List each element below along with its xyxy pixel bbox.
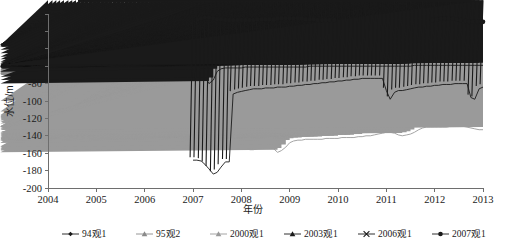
legend-item-2007观1[interactable]: 2007观1 (432, 229, 486, 239)
data-marker (279, 16, 284, 21)
data-marker (251, 18, 256, 23)
y-tick-label: -80 (28, 78, 42, 89)
x-tick-label: 2004 (38, 194, 60, 205)
data-marker (327, 18, 332, 23)
marker-circle (332, 18, 337, 23)
y-tick-label: -20 (28, 26, 42, 37)
x-axis-title: 年份 (243, 203, 263, 215)
legend-label: 95观2 (156, 229, 181, 239)
data-marker (271, 17, 276, 22)
marker-circle (303, 17, 308, 22)
y-tick-label: -160 (23, 148, 42, 159)
legend-item-95观2[interactable]: 95观2 (136, 229, 181, 239)
marker-circle (463, 19, 468, 24)
data-marker (455, 17, 460, 22)
data-marker (211, 16, 216, 21)
marker-circle (446, 16, 451, 21)
x-tick-label: 2009 (279, 194, 300, 205)
x-tick-label: 2007 (183, 194, 204, 205)
data-marker (243, 18, 248, 23)
data-marker (451, 16, 456, 21)
y-tick-label: -60 (28, 61, 42, 72)
marker-circle (451, 16, 456, 21)
chart-canvas: 0-20-40-60-80-100-120-140-160-180-200200… (0, 0, 506, 248)
legend-label: 94观1 (82, 229, 107, 239)
x-tick-label: 2011 (376, 194, 397, 205)
marker-circle (455, 17, 460, 22)
data-marker (255, 17, 260, 22)
marker-circle (291, 16, 296, 21)
marker-diamond (68, 232, 73, 237)
y-axis-title: 水位/m (3, 85, 15, 116)
data-marker (267, 17, 272, 22)
y-tick-label: -40 (28, 43, 42, 54)
data-marker (299, 16, 304, 21)
data-marker (332, 18, 337, 23)
marker-circle (312, 17, 317, 22)
marker-circle (211, 16, 216, 21)
legend-item-94观1[interactable]: 94观1 (62, 229, 107, 239)
marker-circle (207, 15, 212, 20)
marker-circle (458, 18, 463, 23)
marker-circle (243, 18, 248, 23)
legend-item-2006观1[interactable]: 2006观1 (358, 229, 412, 239)
y-tick-label: -120 (23, 113, 42, 124)
water-level-chart: 0-20-40-60-80-100-120-140-160-180-200200… (0, 0, 506, 248)
y-tick-label: -100 (23, 96, 42, 107)
legend-label: 2003观1 (304, 229, 338, 239)
data-marker (231, 18, 236, 23)
legend-item-2003观1[interactable]: 2003观1 (284, 229, 338, 239)
legend-label: 2007观1 (452, 229, 486, 239)
data-marker (471, 20, 476, 25)
marker-circle (231, 18, 236, 23)
marker-circle (430, 18, 435, 23)
data-marker (68, 232, 73, 237)
marker-circle (267, 17, 272, 22)
x-tick-label: 2010 (328, 194, 349, 205)
legend-label: 2000观1 (230, 229, 264, 239)
data-marker (438, 232, 443, 237)
chart-legend: 94观195观22000观12003观12006观12007观1 (62, 229, 486, 239)
data-marker (463, 19, 468, 24)
data-marker (291, 16, 296, 21)
x-tick-label: 2005 (86, 194, 107, 205)
y-tick-label: -200 (23, 183, 42, 194)
legend-label: 2006观1 (378, 229, 412, 239)
marker-circle (279, 16, 284, 21)
plot-area (1, 0, 486, 174)
marker-circle (327, 18, 332, 23)
data-marker (446, 16, 451, 21)
x-tick-label: 2006 (134, 194, 155, 205)
marker-circle (438, 232, 443, 237)
data-marker (207, 15, 212, 20)
data-marker (434, 17, 439, 22)
data-marker (219, 17, 224, 22)
legend-item-2000观1[interactable]: 2000观1 (210, 229, 264, 239)
marker-circle (315, 18, 320, 23)
marker-circle (219, 17, 224, 22)
data-marker (312, 17, 317, 22)
data-marker (315, 18, 320, 23)
y-tick-label: -140 (23, 130, 42, 141)
data-marker (458, 18, 463, 23)
data-marker (199, 16, 204, 21)
data-marker (430, 18, 435, 23)
x-tick-label: 2012 (424, 194, 445, 205)
x-tick-label: 2013 (473, 194, 494, 205)
data-marker (481, 20, 486, 25)
marker-circle (481, 20, 486, 25)
marker-circle (434, 17, 439, 22)
marker-circle (251, 18, 256, 23)
marker-circle (471, 20, 476, 25)
marker-circle (299, 16, 304, 21)
y-tick-label: 0 (37, 9, 42, 20)
marker-circle (271, 17, 276, 22)
marker-circle (255, 17, 260, 22)
marker-circle (199, 16, 204, 21)
y-tick-label: -180 (23, 165, 42, 176)
data-marker (303, 17, 308, 22)
